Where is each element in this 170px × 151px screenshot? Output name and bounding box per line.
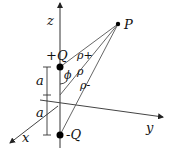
y-axis-label: y — [146, 121, 153, 134]
dipole-diagram — [0, 0, 170, 151]
y-axis — [40, 100, 163, 117]
upper-a-label: a — [36, 74, 44, 87]
angle-label: ϕ — [64, 70, 72, 81]
positive-charge — [57, 64, 64, 71]
negative-charge — [57, 132, 64, 139]
point-p — [116, 22, 120, 26]
rho-label: ρ — [77, 66, 83, 77]
z-axis-label: z — [47, 14, 54, 27]
rho-minus-label: ρ- — [80, 80, 90, 91]
lower-a-label: a — [36, 106, 44, 119]
positive-charge-label: +Q — [46, 49, 68, 62]
point-p-label: P — [124, 18, 133, 31]
rho-plus-label: ρ+ — [77, 50, 93, 61]
negative-charge-label: -Q — [66, 128, 81, 141]
x-axis-label: x — [22, 131, 29, 144]
x-axis — [10, 106, 58, 143]
